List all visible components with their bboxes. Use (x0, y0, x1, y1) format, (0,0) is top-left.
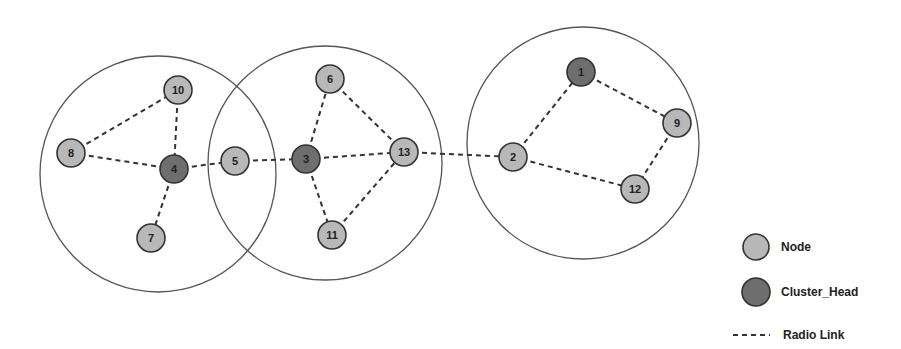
radio-link-11-13 (332, 152, 404, 235)
cluster-head-swatch-icon (742, 278, 770, 306)
legend-label-cluster-head: Cluster_Head (781, 285, 858, 299)
legend-item-cluster-head: Cluster_Head (742, 278, 858, 306)
node-label: 3 (303, 153, 309, 165)
radio-link-6-13 (330, 79, 404, 152)
legend-label-node: Node (781, 240, 811, 254)
node-label: 6 (327, 73, 333, 85)
node-5: 5 (221, 147, 249, 175)
node-label: 13 (398, 146, 410, 158)
cluster-head-1: 1 (567, 58, 595, 86)
node-10: 10 (164, 76, 192, 104)
node-11: 11 (318, 221, 346, 249)
node-label: 5 (232, 155, 238, 167)
legend-item-radio-link: Radio Link (733, 328, 845, 342)
node-label: 8 (68, 147, 74, 159)
node-label: 10 (172, 84, 184, 96)
radio-link-2-1 (513, 72, 581, 157)
node-13: 13 (390, 138, 418, 166)
cluster-head-3: 3 (292, 145, 320, 173)
node-label: 12 (629, 183, 641, 195)
node-label: 1 (578, 66, 584, 78)
cluster-network-diagram: 12345678910111213 Node Cluster_Head Radi… (0, 0, 901, 349)
node-label: 11 (326, 229, 338, 241)
legend: Node Cluster_Head Radio Link (733, 234, 858, 342)
cluster-head-4: 4 (160, 155, 188, 183)
radio-link-1-9 (581, 72, 677, 123)
radio-link-8-4 (71, 153, 174, 169)
node-label: 2 (510, 151, 516, 163)
radio-link-13-2 (404, 152, 513, 157)
node-label: 9 (674, 117, 680, 129)
radio-link-8-10 (71, 90, 178, 153)
network-nodes: 12345678910111213 (57, 58, 691, 252)
radio-link-2-12 (513, 157, 635, 189)
node-2: 2 (499, 143, 527, 171)
node-swatch-icon (743, 234, 769, 260)
node-12: 12 (621, 175, 649, 203)
node-6: 6 (316, 65, 344, 93)
cluster-range-circles (40, 27, 699, 292)
node-8: 8 (57, 139, 85, 167)
legend-label-radio-link: Radio Link (783, 328, 845, 342)
radio-links (71, 72, 677, 238)
node-9: 9 (663, 109, 691, 137)
node-label: 7 (148, 232, 154, 244)
legend-item-node: Node (743, 234, 811, 260)
node-7: 7 (137, 224, 165, 252)
node-label: 4 (171, 163, 178, 175)
